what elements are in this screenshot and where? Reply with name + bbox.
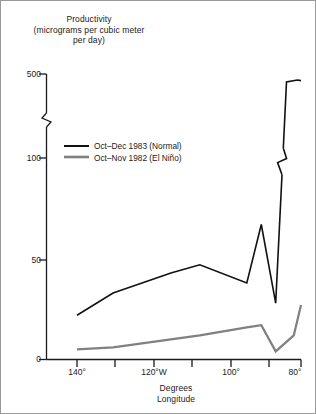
y-axis-break-zigzag bbox=[42, 113, 51, 127]
data-line-el-nino bbox=[77, 305, 301, 351]
data-line-normal-lower bbox=[77, 175, 282, 315]
data-line-normal-upper bbox=[283, 80, 301, 148]
data-line-normal-break-zigzag bbox=[278, 148, 287, 175]
chart-canvas bbox=[1, 1, 316, 414]
chart-figure: Productivity (micrograms per cubic meter… bbox=[0, 0, 316, 414]
